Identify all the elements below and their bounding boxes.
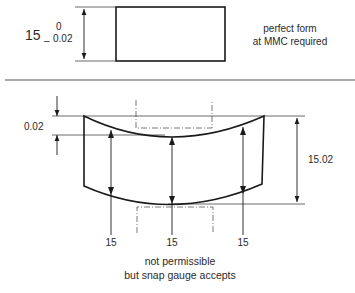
- perfect-form-rectangle: [116, 7, 225, 61]
- lower-tolerance: 0.02: [53, 33, 73, 44]
- note-line-2: at MMC required: [253, 36, 327, 47]
- gauge-envelope-bottom: [137, 207, 213, 233]
- upper-tolerance: 0: [56, 21, 62, 32]
- overall-dim-label: 15.02: [308, 154, 333, 165]
- mmc-envelope-diagram: 15 0 – 0.02 perfect form at MMC required…: [0, 0, 355, 293]
- note-line-1: perfect form: [263, 23, 316, 34]
- caption-line-2: but snap gauge accepts: [124, 269, 236, 281]
- top-perfect-form-part: 15 0 – 0.02 perfect form at MMC required: [25, 7, 327, 61]
- caption-line-1: not permissible: [145, 255, 216, 267]
- local-mid-label: 15: [166, 237, 178, 248]
- bottom-deformed-part: 0.02 15.02 15 15 15 not permissible but …: [24, 96, 333, 281]
- form-dev-label: 0.02: [24, 121, 44, 132]
- local-right-label: 15: [237, 237, 249, 248]
- local-left-label: 15: [105, 237, 117, 248]
- lower-sign: –: [44, 35, 50, 46]
- nominal-size: 15: [25, 27, 41, 43]
- gauge-envelope-top: [136, 100, 212, 128]
